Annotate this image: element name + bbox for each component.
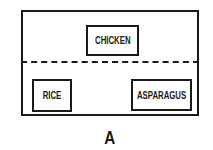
- item-label-rice: RICE: [43, 90, 62, 101]
- item-label-asparagus: ASPARAGUS: [137, 90, 186, 101]
- item-box-chicken: CHICKEN: [86, 25, 139, 56]
- item-box-rice: RICE: [32, 79, 72, 112]
- diagram-caption: A: [100, 127, 120, 149]
- item-box-asparagus: ASPARAGUS: [131, 79, 192, 111]
- dashed-divider: [21, 61, 199, 63]
- item-label-chicken: CHICKEN: [95, 35, 131, 46]
- caption-text: A: [104, 127, 115, 149]
